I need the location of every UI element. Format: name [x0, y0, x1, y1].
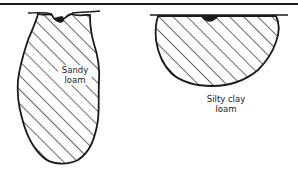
silty-clay-loam-wetted-zone — [156, 16, 279, 86]
sandy-loam-label-line1: Sandy — [59, 65, 91, 75]
sandy-loam-label-line2: loam — [59, 75, 91, 85]
sandy-loam-wetted-zone — [18, 14, 100, 164]
silty-clay-loam-label-line1: Silty clay — [203, 94, 249, 104]
soil-wetting-diagram: Sandy loam Silty clay loam — [0, 0, 298, 175]
silty-clay-loam-label: Silty clay loam — [202, 94, 250, 114]
diagram-canvas — [0, 0, 298, 175]
sandy-loam-profile — [18, 11, 100, 164]
silty-clay-loam-label-line2: loam — [203, 104, 249, 114]
silty-clay-loam-profile — [150, 15, 288, 86]
sandy-loam-label: Sandy loam — [58, 65, 92, 85]
